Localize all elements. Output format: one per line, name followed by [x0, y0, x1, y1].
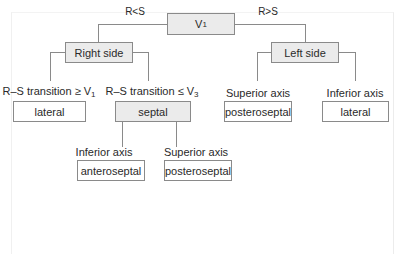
- connector: [176, 122, 177, 147]
- connector: [257, 52, 258, 81]
- result-lateral-left: lateral: [322, 101, 389, 122]
- condition-text: R–S transition ≥ V: [2, 85, 91, 97]
- connector: [98, 24, 99, 42]
- condition-subscript: 3: [194, 90, 198, 99]
- result-posteroseptal-septal: posteroseptal: [164, 160, 232, 181]
- condition-superior-axis-left: Superior axis: [226, 87, 290, 99]
- connector: [50, 52, 65, 53]
- connector: [133, 52, 149, 53]
- connector: [235, 24, 305, 25]
- root-subscript: 1: [202, 20, 206, 29]
- septal-node: septal: [115, 101, 191, 122]
- right-side-node: Right side: [65, 42, 133, 63]
- connector: [122, 122, 123, 147]
- condition-text: R–S transition ≤ V: [105, 85, 194, 97]
- condition-inferior-axis-left: Inferior axis: [327, 87, 384, 99]
- connector: [355, 52, 356, 81]
- connector: [305, 24, 306, 42]
- condition-superior-axis-septal: Superior axis: [164, 146, 228, 158]
- edge-label-r-greater-s: R>S: [258, 6, 278, 17]
- connector: [98, 24, 167, 25]
- connector: [257, 52, 271, 53]
- connector: [148, 52, 149, 81]
- condition-inferior-axis-septal: Inferior axis: [76, 146, 133, 158]
- condition-rs-transition-v1: R–S transition ≥ V1: [2, 85, 95, 99]
- root-label: V: [195, 18, 202, 30]
- result-lateral-right: lateral: [13, 101, 86, 122]
- result-anteroseptal: anteroseptal: [77, 160, 145, 181]
- connector: [50, 52, 51, 81]
- left-side-node: Left side: [271, 42, 339, 63]
- edge-label-r-less-s: R<S: [125, 6, 145, 17]
- connector: [339, 52, 356, 53]
- result-posteroseptal-left: posteroseptal: [224, 101, 292, 122]
- root-node-v1: V1: [167, 13, 235, 35]
- condition-rs-transition-v3: R–S transition ≤ V3: [105, 85, 198, 99]
- condition-subscript: 1: [91, 90, 95, 99]
